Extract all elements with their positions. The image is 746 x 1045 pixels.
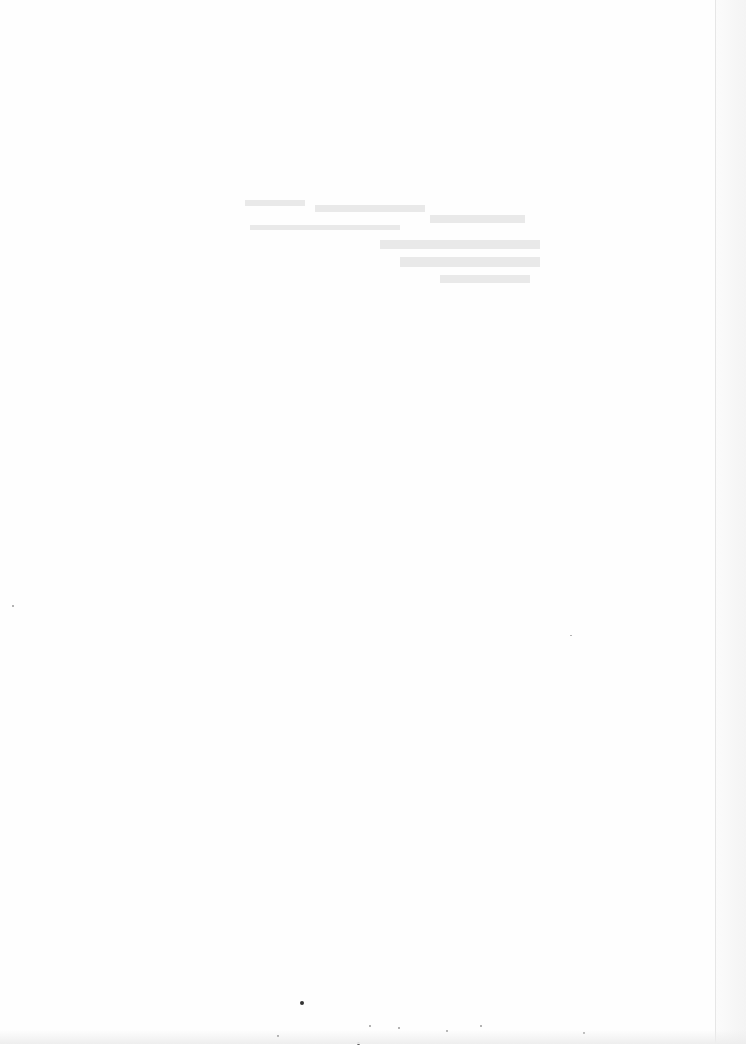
page-right-edge bbox=[715, 0, 746, 1044]
dust-speck bbox=[12, 605, 14, 607]
page-bottom-shadow bbox=[0, 1030, 746, 1044]
dust-speck bbox=[480, 1025, 482, 1027]
dust-speck bbox=[398, 1027, 400, 1029]
bleed-through-marks bbox=[230, 185, 560, 300]
dust-speck bbox=[369, 1025, 371, 1027]
dust-speck bbox=[300, 1001, 304, 1005]
dust-speck bbox=[570, 635, 572, 636]
